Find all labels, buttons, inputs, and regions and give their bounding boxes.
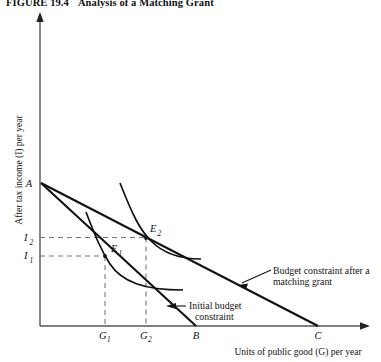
label-i1: I 1 [23, 250, 33, 265]
annotation-matching-grant-line1: Budget constraint after a [273, 265, 370, 276]
label-g2-base: G [140, 330, 148, 341]
point-marker-e2 [144, 236, 148, 240]
label-i2-base: I [23, 232, 28, 243]
figure-container: FIGURE 19.4Analysis of a Matching Grant … [0, 0, 381, 362]
label-g1-subscript: 1 [107, 335, 111, 344]
label-point-e2: E 2 [149, 223, 162, 238]
x-axis [40, 322, 370, 329]
label-point-e2-base: E [149, 223, 157, 234]
label-i2: I 2 [23, 232, 34, 247]
label-g2-subscript: 2 [148, 335, 152, 344]
x-axis-label: Units of public good (G) per year [234, 347, 362, 358]
label-point-e2-subscript: 2 [158, 229, 162, 238]
y-axis-label: After tax income (I) per year [14, 114, 25, 224]
annotation-initial-line2: constraint [195, 311, 234, 322]
leader-line-matching-grant [242, 270, 271, 283]
label-i1-subscript: 1 [30, 256, 34, 265]
label-g1: G 1 [99, 330, 111, 344]
matching-grant-budget-constraint-line [41, 183, 318, 326]
label-point-e1-subscript: 1 [119, 249, 123, 258]
indifference-curve-low [86, 212, 183, 290]
y-axis-arrow-icon [36, 12, 43, 22]
label-g2: G 2 [140, 330, 152, 344]
label-point-b: B [193, 330, 200, 341]
label-point-a: A [25, 178, 33, 189]
label-i2-subscript: 2 [30, 238, 34, 247]
point-marker-e1 [103, 254, 107, 258]
matching-grant-chart: After tax income (I) per year Units of p… [0, 0, 381, 362]
label-g1-base: G [99, 330, 107, 341]
annotation-initial-constraint: Initial budget constraint [166, 300, 242, 322]
x-axis-arrow-icon [360, 322, 370, 329]
annotation-matching-grant: Budget constraint after a matching grant [238, 265, 370, 290]
label-i1-base: I [23, 250, 28, 261]
label-point-c: C [314, 330, 322, 341]
annotation-initial-line1: Initial budget [189, 300, 242, 311]
annotation-matching-grant-line2: matching grant [273, 276, 332, 287]
label-point-e1-base: E [110, 243, 118, 254]
label-point-e1: E 1 [110, 243, 122, 258]
indifference-curve-high [120, 183, 201, 259]
y-axis [36, 12, 43, 326]
